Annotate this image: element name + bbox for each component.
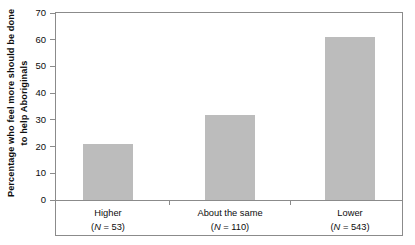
y-tick-mark [50,13,55,14]
x-label-higher-count: (N = 53) [58,221,158,234]
x-tick-divider-2 [290,200,291,205]
x-label-about-the-same-count: (N = 110) [180,221,280,234]
y-tick-mark [50,39,55,40]
y-tick-mark [50,66,55,67]
y-tick-40: 40 [0,87,55,99]
y-tick-50: 50 [0,60,55,72]
x-label-lower: Lower (N = 543) [300,207,400,234]
y-tick-mark [50,93,55,94]
y-tick-20: 20 [0,141,55,153]
x-label-higher-text: Higher [94,208,121,218]
y-tick-mark [50,200,55,201]
bar-chart: Percentage who feel more should be done … [0,0,415,245]
bar-about-the-same [205,115,255,200]
x-label-higher-count-value: = 53) [101,222,125,232]
x-label-about-the-same: About the same (N = 110) [180,207,280,234]
x-label-lower-text: Lower [337,208,362,218]
y-tick-mark [50,146,55,147]
y-tick-mark [50,173,55,174]
x-axis-baseline [55,200,403,201]
x-label-about-the-same-text: About the same [197,208,262,218]
bar-higher [83,144,133,200]
x-label-higher: Higher (N = 53) [58,207,158,234]
y-tick-0: 0 [0,194,55,206]
y-tick-10: 10 [0,167,55,179]
y-tick-60: 60 [0,34,55,46]
y-tick-mark [50,119,55,120]
bar-lower [325,37,375,200]
x-tick-divider-1 [169,200,170,205]
y-tick-30: 30 [0,114,55,126]
x-label-lower-count: (N = 543) [300,221,400,234]
x-label-about-the-same-count-value: = 110) [221,222,250,232]
y-tick-70: 70 [0,7,55,19]
x-label-lower-count-value: = 543) [340,222,369,232]
